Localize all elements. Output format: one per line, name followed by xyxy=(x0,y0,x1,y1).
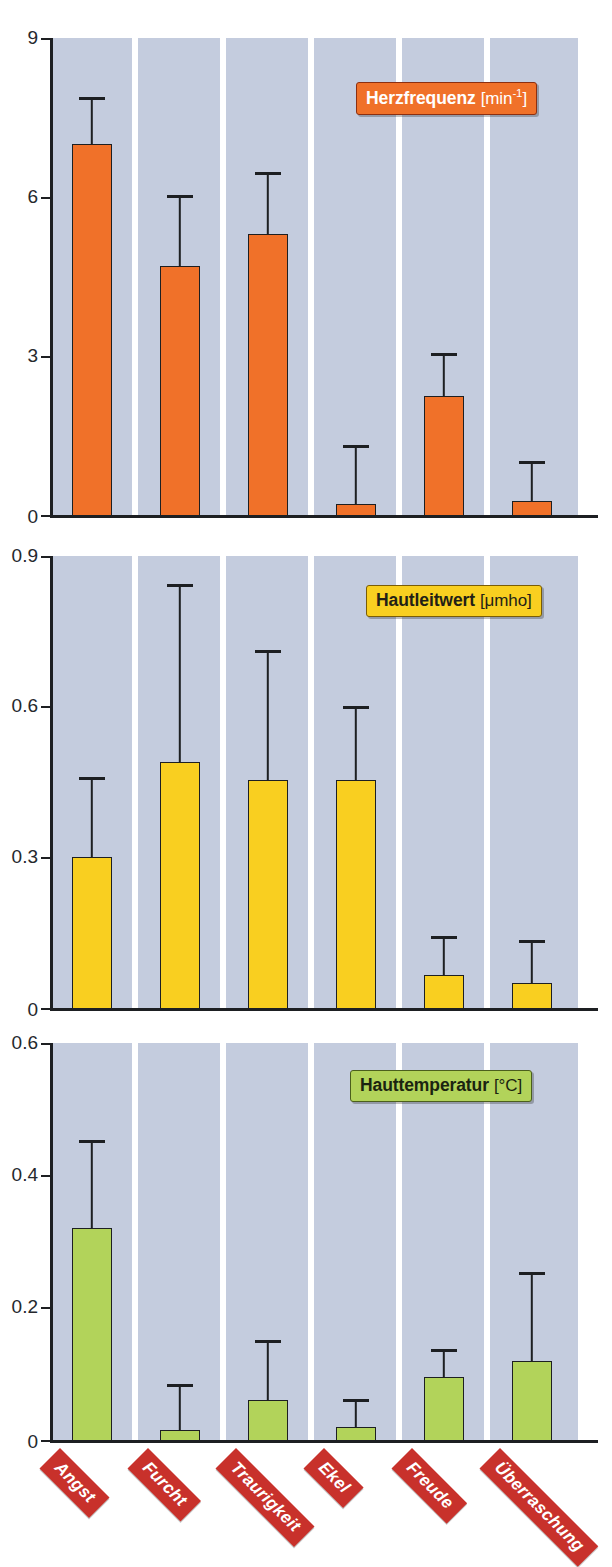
error-bar-cap xyxy=(79,1140,105,1143)
y-tick-label: 0.3 xyxy=(0,846,38,868)
error-bar-ekel xyxy=(355,708,357,780)
panel-herzfrequenz: 9 6 3 0 Herzfrequenz [min-1] xyxy=(0,38,612,518)
y-tick-label: 0 xyxy=(0,999,38,1021)
error-bar-cap xyxy=(431,936,457,939)
error-bar-traurigkeit xyxy=(267,1342,269,1400)
error-bar-ueberraschung xyxy=(531,463,533,501)
legend-title: Hauttemperatur xyxy=(360,1075,489,1096)
error-bar-cap xyxy=(519,1272,545,1275)
y-tick-label: 9 xyxy=(0,27,38,49)
bar-ekel xyxy=(336,504,376,515)
legend-hautleitwert: Hautleitwert [μmho] xyxy=(366,585,542,617)
bar-ueberraschung xyxy=(512,983,552,1008)
legend-title: Hautleitwert xyxy=(376,590,475,611)
bar-angst xyxy=(72,857,112,1008)
x-axis-line xyxy=(50,1008,598,1011)
column-background xyxy=(314,1043,396,1440)
y-tick-label: 0.2 xyxy=(0,1296,38,1318)
y-axis-line xyxy=(50,38,53,518)
y-tick xyxy=(41,356,50,358)
legend-title: Herzfrequenz xyxy=(366,88,476,109)
x-label-traurigkeit: Traurigkeit xyxy=(215,1448,314,1547)
error-bar-furcht xyxy=(179,1386,181,1430)
plot-area-hauttemperatur: 0.6 0.4 0.2 0 Hauttemperatur [°C] xyxy=(50,1043,598,1443)
y-tick xyxy=(41,1175,50,1177)
bar-ekel xyxy=(336,780,376,1008)
legend-unit: [μmho] xyxy=(480,591,532,611)
x-axis-category-labels: Angst Furcht Traurigkeit Ekel Freude Übe… xyxy=(0,1448,612,1557)
bar-traurigkeit xyxy=(248,1400,288,1440)
y-tick-label: 0.4 xyxy=(0,1164,38,1186)
error-bar-cap xyxy=(343,445,369,448)
bar-ekel xyxy=(336,1427,376,1440)
legend-unit: [min-1] xyxy=(481,87,527,109)
y-tick xyxy=(41,1008,50,1010)
error-bar-furcht xyxy=(179,197,181,266)
error-bar-cap xyxy=(255,650,281,653)
error-bar-ueberraschung xyxy=(531,1274,533,1361)
y-tick xyxy=(41,1307,50,1309)
bar-freude xyxy=(424,975,464,1008)
bar-traurigkeit xyxy=(248,780,288,1008)
panel-hautleitwert: 0.9 0.6 0.3 0 Hautleitwert [μmho] xyxy=(0,556,612,1011)
error-bar-angst xyxy=(91,779,93,857)
error-bar-angst xyxy=(91,1142,93,1228)
y-tick-label: 0.9 xyxy=(0,545,38,567)
error-bar-cap xyxy=(167,195,193,198)
y-tick xyxy=(41,1043,50,1045)
x-label-ekel: Ekel xyxy=(303,1448,363,1508)
error-bar-ekel xyxy=(355,447,357,504)
bar-traurigkeit xyxy=(248,234,288,515)
error-bar-freude xyxy=(443,355,445,396)
y-tick-label: 6 xyxy=(0,186,38,208)
y-tick xyxy=(41,857,50,859)
error-bar-cap xyxy=(167,1384,193,1387)
error-bar-traurigkeit xyxy=(267,652,269,780)
x-label-freude: Freude xyxy=(391,1448,467,1524)
error-bar-cap xyxy=(255,1340,281,1343)
y-tick xyxy=(41,1440,50,1442)
y-tick-label: 0.6 xyxy=(0,1032,38,1054)
error-bar-cap xyxy=(79,777,105,780)
y-tick xyxy=(41,515,50,517)
bar-furcht xyxy=(160,1430,200,1440)
plot-area-herzfrequenz: 9 6 3 0 Herzfrequenz [min-1] xyxy=(50,38,598,518)
y-tick xyxy=(41,706,50,708)
y-tick xyxy=(41,556,50,558)
legend-herzfrequenz: Herzfrequenz [min-1] xyxy=(356,82,537,115)
y-tick-label: 0 xyxy=(0,506,38,528)
y-axis-line xyxy=(50,1043,53,1443)
error-bar-freude xyxy=(443,938,445,975)
panel-hauttemperatur: 0.6 0.4 0.2 0 Hauttemperatur [°C] xyxy=(0,1043,612,1443)
y-axis-line xyxy=(50,556,53,1011)
y-tick-label: 0.6 xyxy=(0,695,38,717)
bar-angst xyxy=(72,1228,112,1440)
bar-freude xyxy=(424,396,464,515)
error-bar-cap xyxy=(255,172,281,175)
legend-hauttemperatur: Hauttemperatur [°C] xyxy=(350,1070,532,1102)
legend-unit: [°C] xyxy=(494,1076,522,1096)
error-bar-traurigkeit xyxy=(267,174,269,234)
error-bar-ekel xyxy=(355,1401,357,1427)
x-label-ueberraschung: Überraschung xyxy=(479,1448,598,1567)
error-bar-cap xyxy=(431,353,457,356)
y-tick xyxy=(41,197,50,199)
x-label-furcht: Furcht xyxy=(127,1448,200,1521)
bar-ueberraschung xyxy=(512,1361,552,1440)
bar-ueberraschung xyxy=(512,501,552,515)
error-bar-cap xyxy=(343,706,369,709)
bar-angst xyxy=(72,144,112,515)
error-bar-cap xyxy=(167,584,193,587)
error-bar-ueberraschung xyxy=(531,942,533,983)
error-bar-angst xyxy=(91,99,93,144)
bar-furcht xyxy=(160,762,200,1008)
error-bar-cap xyxy=(79,97,105,100)
x-label-angst: Angst xyxy=(39,1448,109,1518)
x-axis-line xyxy=(50,515,598,518)
plot-area-hautleitwert: 0.9 0.6 0.3 0 Hautleitwert [μmho] xyxy=(50,556,598,1011)
bar-freude xyxy=(424,1377,464,1440)
column-background xyxy=(138,1043,220,1440)
error-bar-cap xyxy=(519,940,545,943)
y-tick xyxy=(41,38,50,40)
